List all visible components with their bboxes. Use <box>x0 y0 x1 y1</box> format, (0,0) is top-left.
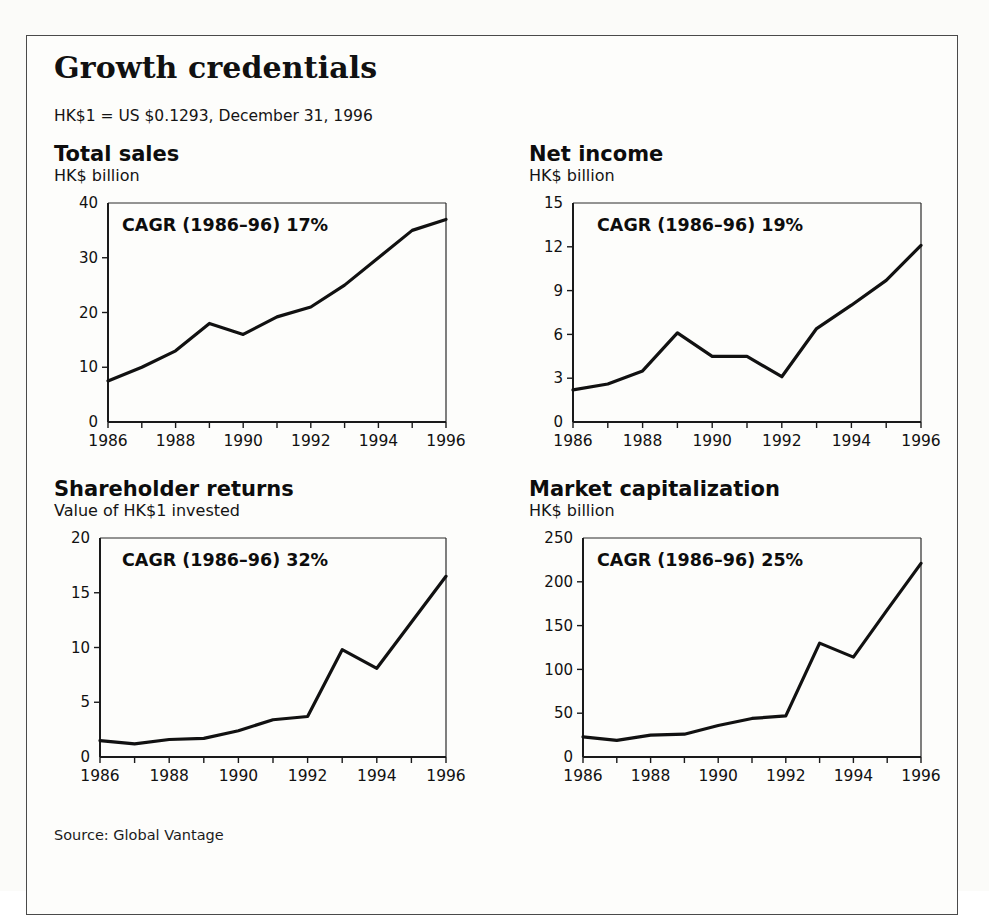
svg-text:100: 100 <box>544 660 573 678</box>
svg-text:1996: 1996 <box>426 432 465 450</box>
source-note: Source: Global Vantage <box>54 827 938 843</box>
svg-text:1990: 1990 <box>219 767 258 785</box>
plot-area-total-sales: 010203040198619881990199219941996 CAGR (… <box>54 195 474 454</box>
plot-area-net-income: 03691215198619881990199219941996 CAGR (1… <box>529 195 949 454</box>
chart-panel-net-income: Net income HK$ billion 03691215198619881… <box>529 143 938 478</box>
cagr-annotation-market-capitalization: CAGR (1986–96) 25% <box>597 550 803 570</box>
svg-text:1994: 1994 <box>832 432 871 450</box>
svg-text:5: 5 <box>80 693 90 711</box>
svg-text:12: 12 <box>544 238 563 256</box>
exhibit-content: Growth credentials HK$1 = US $0.1293, De… <box>54 51 938 901</box>
svg-text:9: 9 <box>553 281 563 299</box>
plot-area-shareholder-returns: 05101520198619881990199219941996 CAGR (1… <box>54 530 474 789</box>
svg-text:40: 40 <box>79 195 98 212</box>
svg-text:1990: 1990 <box>698 767 737 785</box>
page-title: Growth credentials <box>54 51 938 84</box>
chart-subtitle-net-income: HK$ billion <box>529 167 938 185</box>
svg-text:1996: 1996 <box>901 767 940 785</box>
svg-text:1988: 1988 <box>149 767 188 785</box>
svg-text:1992: 1992 <box>766 767 805 785</box>
charts-grid: Total sales HK$ billion 0102030401986198… <box>54 143 938 818</box>
svg-text:10: 10 <box>79 358 98 376</box>
chart-panel-total-sales: Total sales HK$ billion 0102030401986198… <box>54 143 529 478</box>
chart-subtitle-market-capitalization: HK$ billion <box>529 502 938 520</box>
cagr-annotation-shareholder-returns: CAGR (1986–96) 32% <box>122 550 328 570</box>
svg-text:1988: 1988 <box>623 432 662 450</box>
svg-text:1996: 1996 <box>901 432 940 450</box>
svg-text:1994: 1994 <box>834 767 873 785</box>
svg-text:1990: 1990 <box>223 432 262 450</box>
svg-text:0: 0 <box>563 748 573 766</box>
chart-title-total-sales: Total sales <box>54 143 529 167</box>
svg-text:250: 250 <box>544 530 573 547</box>
svg-text:1986: 1986 <box>563 767 602 785</box>
exhibit-frame: Growth credentials HK$1 = US $0.1293, De… <box>26 35 958 915</box>
svg-text:1986: 1986 <box>553 432 592 450</box>
svg-text:15: 15 <box>544 195 563 212</box>
svg-text:20: 20 <box>71 530 90 547</box>
chart-title-shareholder-returns: Shareholder returns <box>54 478 529 502</box>
svg-text:1992: 1992 <box>288 767 327 785</box>
svg-text:1988: 1988 <box>156 432 195 450</box>
svg-text:0: 0 <box>80 748 90 766</box>
cagr-annotation-total-sales: CAGR (1986–96) 17% <box>122 215 328 235</box>
svg-text:1986: 1986 <box>80 767 119 785</box>
plot-area-market-capitalization: 050100150200250198619881990199219941996 … <box>529 530 949 789</box>
svg-text:1986: 1986 <box>88 432 127 450</box>
svg-text:0: 0 <box>553 413 563 431</box>
svg-text:150: 150 <box>544 616 573 634</box>
svg-text:3: 3 <box>553 369 563 387</box>
svg-text:1992: 1992 <box>762 432 801 450</box>
svg-text:50: 50 <box>554 704 573 722</box>
svg-text:1988: 1988 <box>631 767 670 785</box>
svg-text:10: 10 <box>71 638 90 656</box>
svg-text:1994: 1994 <box>359 432 398 450</box>
svg-text:1990: 1990 <box>692 432 731 450</box>
chart-panel-shareholder-returns: Shareholder returns Value of HK$1 invest… <box>54 478 529 818</box>
svg-text:1996: 1996 <box>426 767 465 785</box>
svg-text:20: 20 <box>79 303 98 321</box>
chart-subtitle-shareholder-returns: Value of HK$1 invested <box>54 502 529 520</box>
cagr-annotation-net-income: CAGR (1986–96) 19% <box>597 215 803 235</box>
chart-title-net-income: Net income <box>529 143 938 167</box>
svg-text:1994: 1994 <box>357 767 396 785</box>
svg-text:1992: 1992 <box>291 432 330 450</box>
chart-title-market-capitalization: Market capitalization <box>529 478 938 502</box>
svg-text:200: 200 <box>544 573 573 591</box>
exchange-rate-note: HK$1 = US $0.1293, December 31, 1996 <box>54 107 938 126</box>
svg-text:15: 15 <box>71 583 90 601</box>
chart-subtitle-total-sales: HK$ billion <box>54 167 529 185</box>
svg-text:30: 30 <box>79 248 98 266</box>
svg-text:6: 6 <box>553 325 563 343</box>
svg-text:0: 0 <box>88 413 98 431</box>
chart-panel-market-capitalization: Market capitalization HK$ billion 050100… <box>529 478 938 818</box>
